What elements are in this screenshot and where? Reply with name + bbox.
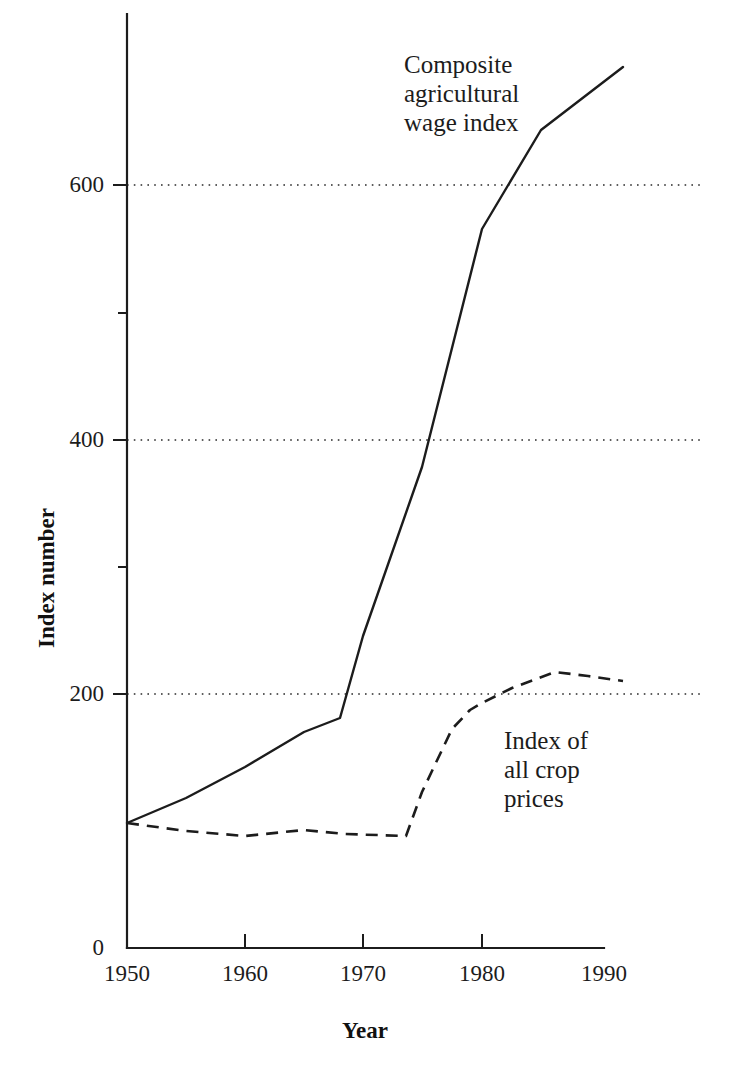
x-tick-label-1950: 1950: [95, 962, 159, 985]
x-tick-label-1990: 1990: [572, 962, 636, 985]
chart-figure: 600 400 200 0 1950 1960 1970 1980 1990 I…: [0, 0, 730, 1072]
annotation-crop-prices: Index of all crop prices: [504, 726, 588, 813]
x-tick-label-1980: 1980: [450, 962, 514, 985]
y-tick-label-200: 200: [42, 682, 104, 705]
y-axis-title: Index number: [34, 508, 60, 648]
x-tick-label-1960: 1960: [213, 962, 277, 985]
y-axis-ticks: [113, 185, 127, 694]
y-tick-label-400: 400: [42, 428, 104, 451]
annotation-wage-index: Composite agricultural wage index: [404, 50, 519, 137]
x-tick-label-1970: 1970: [331, 962, 395, 985]
y-tick-label-600: 600: [42, 173, 104, 196]
series-composite-agricultural-wage-index: [127, 67, 623, 823]
x-axis-ticks: [245, 934, 482, 948]
data-series: [127, 67, 623, 836]
x-axis-title: Year: [0, 1018, 730, 1044]
gridlines: [127, 185, 700, 694]
y-tick-label-0: 0: [42, 936, 104, 959]
chart-plot-area: [0, 0, 730, 1072]
